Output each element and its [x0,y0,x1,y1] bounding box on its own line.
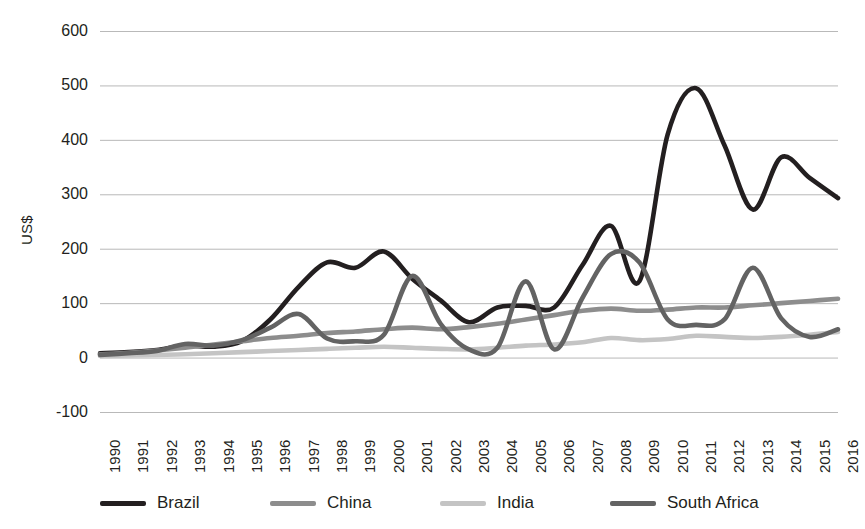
x-axis-tick-1991: 1991 [135,440,150,473]
x-axis-tick-2013: 2013 [760,440,775,473]
x-axis-tick-2011: 2011 [703,441,718,473]
x-axis-tick-2006: 2006 [561,440,576,473]
series-lines [100,88,838,356]
x-axis-tick-2000: 2000 [391,440,406,473]
x-axis-tick-1990: 1990 [107,440,122,473]
x-axis-tick-1996: 1996 [277,440,292,473]
x-axis-tick-1998: 1998 [334,440,349,473]
x-axis-tick-2015: 2015 [817,440,832,473]
x-axis-tick-1994: 1994 [221,440,236,473]
legend-swatch-icon [100,501,146,506]
legend-label: China [327,493,371,513]
x-axis-tick-2016: 2016 [845,440,860,473]
legend-item-brazil[interactable]: Brazil [100,493,200,513]
legend-item-india[interactable]: India [440,493,534,513]
legend-label: South Africa [667,493,759,513]
legend-item-south-africa[interactable]: South Africa [610,493,759,513]
x-axis-tick-1992: 1992 [164,440,179,473]
x-axis-tick-1999: 1999 [362,440,377,473]
x-axis-tick-2005: 2005 [533,440,548,473]
x-axis-tick-1995: 1995 [249,440,264,473]
x-axis-tick-2003: 2003 [476,440,491,473]
x-axis-tick-2009: 2009 [646,440,661,473]
chart-legend: BrazilChinaIndiaSouth Africa [100,487,838,519]
x-axis-tick-1993: 1993 [192,440,207,473]
x-axis-tick-1997: 1997 [306,440,321,473]
x-axis-tick-2002: 2002 [448,440,463,473]
x-axis-tick-2010: 2010 [675,440,690,473]
line-chart: US$ 6005004003002001000-100 199019911992… [0,0,865,529]
x-axis-tick-2008: 2008 [618,440,633,473]
x-axis-tick-2007: 2007 [590,440,605,473]
legend-swatch-icon [610,501,656,506]
legend-swatch-icon [440,501,486,506]
x-axis-tick-2012: 2012 [731,440,746,473]
legend-label: Brazil [157,493,200,513]
legend-swatch-icon [270,501,316,506]
x-axis-tick-2014: 2014 [788,440,803,473]
x-axis-tick-2001: 2001 [419,440,434,473]
x-axis-tick-2004: 2004 [504,440,519,473]
legend-item-china[interactable]: China [270,493,371,513]
legend-label: India [497,493,534,513]
